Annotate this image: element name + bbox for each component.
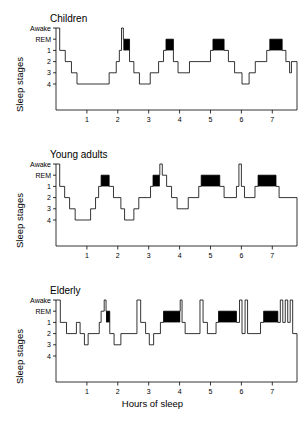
rem-episode-bar xyxy=(264,311,278,322)
y-tick-label: 1 xyxy=(47,47,51,54)
y-tick-label: 4 xyxy=(47,353,51,360)
y-tick-label: 4 xyxy=(47,81,51,88)
x-tick-label: 3 xyxy=(147,116,151,123)
x-tick-label: 6 xyxy=(239,116,243,123)
x-tick-label: 1 xyxy=(85,116,89,123)
rem-episode-bar xyxy=(123,39,129,50)
panel-title-children: Children xyxy=(50,13,87,24)
x-tick-label: 5 xyxy=(209,388,213,395)
hypnogram-figure: Children Sleep stages AwakeREM1234123456… xyxy=(0,0,305,428)
x-axis-title: Hours of sleep xyxy=(0,398,305,409)
x-tick-label: 5 xyxy=(209,252,213,259)
panel-young-adults: Young adults Sleep stages AwakeREM123412… xyxy=(0,136,305,272)
plot-area-elderly: AwakeREM12341234567 xyxy=(0,272,305,408)
y-tick-label: 3 xyxy=(47,69,51,76)
x-tick-label: 6 xyxy=(239,252,243,259)
sleep-stage-trace xyxy=(56,28,297,110)
panel-elderly: Elderly Sleep stages AwakeREM12341234567… xyxy=(0,272,305,428)
x-tick-label: 2 xyxy=(116,252,120,259)
x-tick-label: 7 xyxy=(270,252,274,259)
y-tick-label: 1 xyxy=(47,183,51,190)
y-tick-label: 3 xyxy=(47,205,51,212)
x-tick-label: 1 xyxy=(85,388,89,395)
axis-spine xyxy=(56,28,297,110)
x-tick-label: 3 xyxy=(147,252,151,259)
y-tick-label: 1 xyxy=(47,319,51,326)
y-tick-label: 2 xyxy=(47,330,51,337)
x-tick-label: 4 xyxy=(178,116,182,123)
rem-episode-bar xyxy=(101,175,109,186)
y-tick-label: Awake xyxy=(30,297,51,304)
x-tick-label: 5 xyxy=(209,116,213,123)
x-tick-label: 4 xyxy=(178,388,182,395)
y-tick-label: 2 xyxy=(47,58,51,65)
y-tick-label: Awake xyxy=(30,161,51,168)
rem-episode-bar xyxy=(258,175,276,186)
y-tick-label: 2 xyxy=(47,194,51,201)
y-axis-title-children: Sleep stages xyxy=(14,57,25,112)
plot-area-children: AwakeREM12341234567 xyxy=(0,0,305,136)
x-tick-label: 1 xyxy=(85,252,89,259)
rem-episode-bar xyxy=(166,39,173,50)
panel-title-elderly: Elderly xyxy=(50,285,81,296)
x-tick-label: 6 xyxy=(239,388,243,395)
x-tick-label: 7 xyxy=(270,388,274,395)
y-axis-title-elderly: Sleep stages xyxy=(14,329,25,384)
y-axis-title-young-adults: Sleep stages xyxy=(14,193,25,248)
rem-episode-bar xyxy=(164,311,181,322)
x-tick-label: 2 xyxy=(116,388,120,395)
y-tick-label: REM xyxy=(35,172,51,179)
plot-area-young-adults: AwakeREM12341234567 xyxy=(0,136,305,272)
x-tick-label: 7 xyxy=(270,116,274,123)
rem-episode-bar xyxy=(213,39,224,50)
rem-episode-bar xyxy=(270,39,282,50)
rem-episode-bar xyxy=(201,175,220,186)
panel-children: Children Sleep stages AwakeREM1234123456… xyxy=(0,0,305,136)
y-tick-label: 4 xyxy=(47,217,51,224)
rem-episode-bar xyxy=(219,311,237,322)
y-tick-label: REM xyxy=(35,308,51,315)
y-tick-label: Awake xyxy=(30,25,51,32)
rem-episode-bar xyxy=(153,175,160,186)
rem-episode-bar xyxy=(106,311,110,322)
x-tick-label: 2 xyxy=(116,116,120,123)
x-tick-label: 3 xyxy=(147,388,151,395)
y-tick-label: REM xyxy=(35,36,51,43)
panel-title-young-adults: Young adults xyxy=(50,149,107,160)
y-tick-label: 3 xyxy=(47,341,51,348)
x-tick-label: 4 xyxy=(178,252,182,259)
